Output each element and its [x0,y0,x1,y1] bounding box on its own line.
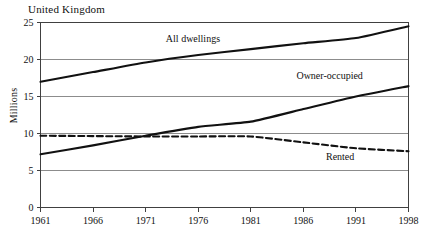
series-lines-group [41,26,409,154]
x-axis-tick-label: 1966 [83,215,103,226]
gridlines-group [41,23,409,208]
series-label-all-dwellings: All dwellings [166,33,220,44]
x-axis-ticks-group: 19611966197119761981198619911998 [31,208,419,226]
series-line-rented [41,136,409,152]
y-axis-tick-label: 25 [24,17,34,28]
series-annotations-group: All dwellingsOwner-occupiedRented [166,33,363,162]
x-axis-tick-label: 1961 [31,215,51,226]
axis-lines-group [41,23,409,208]
y-axis-tick-label: 5 [29,165,34,176]
y-axis-tick-label: 15 [24,91,34,102]
y-axis-tick-label: 10 [24,128,34,139]
x-axis-tick-label: 1971 [136,215,156,226]
series-label-owner-occupied: Owner-occupied [296,70,362,81]
x-axis-tick-label: 1998 [399,215,419,226]
x-axis-tick-label: 1991 [346,215,366,226]
line-chart-plot: 0510152025 19611966197119761981198619911… [0,0,431,232]
chart-figure: United Kingdom Millions 0510152025 19611… [0,0,431,232]
x-axis-tick-label: 1986 [293,215,313,226]
y-axis-tick-label: 0 [29,202,34,213]
y-axis-tick-label: 20 [24,54,34,65]
x-axis-tick-label: 1981 [241,215,261,226]
x-axis-tick-label: 1976 [188,215,208,226]
y-axis-ticks-group: 0510152025 [24,17,41,213]
series-label-rented: Rented [326,151,354,162]
